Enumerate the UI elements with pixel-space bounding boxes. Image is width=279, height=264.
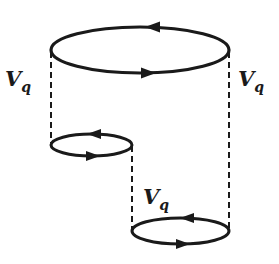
middle-left-loop bbox=[51, 129, 132, 161]
feynman-diagram bbox=[0, 0, 279, 264]
top-loop bbox=[51, 22, 229, 79]
arrow-right-icon bbox=[141, 68, 156, 79]
arrow-left-icon bbox=[180, 213, 194, 223]
bottom-right-loop bbox=[132, 213, 229, 249]
arrow-right-icon bbox=[176, 239, 190, 249]
arrow-right-icon bbox=[86, 151, 100, 161]
arrow-left-icon bbox=[145, 22, 160, 33]
left-vq-label: Vq bbox=[5, 68, 31, 94]
right-vq-label: Vq bbox=[238, 68, 264, 94]
middle-vq-label: Vq bbox=[143, 186, 169, 212]
arrow-left-icon bbox=[87, 129, 101, 139]
